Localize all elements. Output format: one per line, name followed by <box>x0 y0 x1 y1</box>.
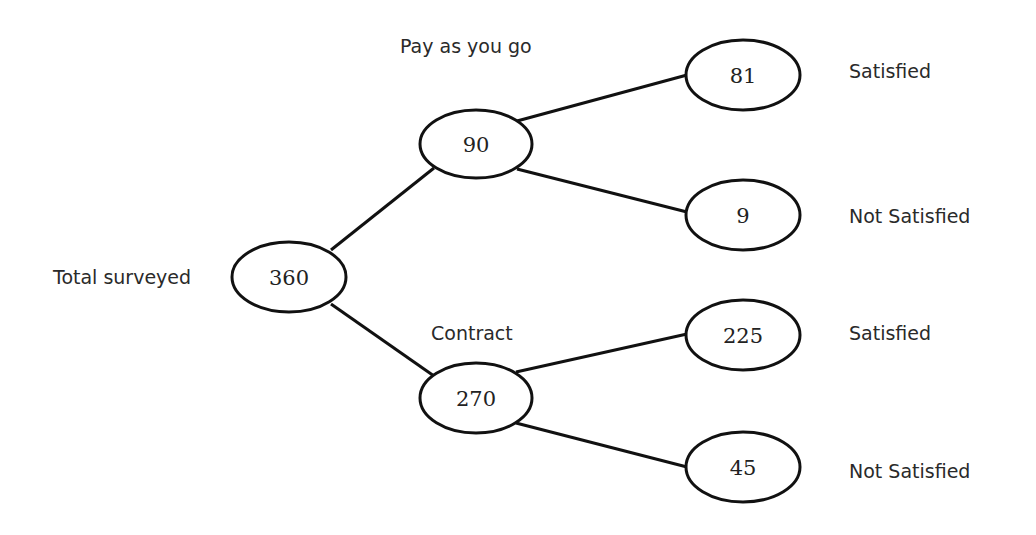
node-pay-as-you-go-satisfied: 81 <box>686 40 800 110</box>
edge-pay-as-you-go-to-not-satisfied <box>517 169 687 212</box>
edge-root-to-contract <box>331 304 434 376</box>
outcome-label: Not Satisfied <box>849 460 970 482</box>
node-value: 9 <box>736 204 749 228</box>
root-label: Total surveyed <box>52 266 191 288</box>
node-contract: 270 <box>420 363 532 433</box>
branch-label-contract: Contract <box>431 322 513 344</box>
node-root: 360 <box>232 242 346 312</box>
node-value: 270 <box>456 387 496 411</box>
edge-root-to-pay-as-you-go <box>331 168 434 250</box>
edge-pay-as-you-go-to-satisfied <box>517 75 687 121</box>
node-value: 45 <box>730 456 757 480</box>
node-value: 360 <box>269 266 309 290</box>
node-pay-as-you-go-not-satisfied: 9 <box>686 180 800 250</box>
branch-label-pay-as-you-go: Pay as you go <box>400 35 532 57</box>
tree-diagram: 360 Total surveyed Pay as you go 90 Cont… <box>0 0 1036 535</box>
node-value: 90 <box>463 133 490 157</box>
edge-contract-to-satisfied <box>516 334 687 372</box>
node-value: 81 <box>730 64 757 88</box>
node-contract-satisfied: 225 <box>686 300 800 370</box>
node-pay-as-you-go: 90 <box>420 110 532 178</box>
node-value: 225 <box>723 324 763 348</box>
outcome-label: Satisfied <box>849 322 931 344</box>
node-contract-not-satisfied: 45 <box>686 432 800 502</box>
outcome-label: Not Satisfied <box>849 205 970 227</box>
outcome-label: Satisfied <box>849 60 931 82</box>
edge-contract-to-not-satisfied <box>516 423 687 467</box>
